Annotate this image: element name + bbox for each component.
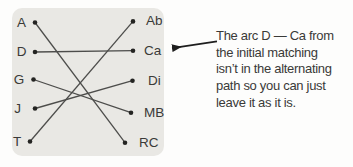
figure-canvas: A D G J T Ab Ca Di MB RC The arc D — Ca … <box>0 0 353 167</box>
edge-G-MB <box>34 80 132 113</box>
annotation-line-2: the initial matching <box>216 45 353 62</box>
matching-edges-graphic <box>12 8 164 156</box>
node-dot-G <box>31 77 36 82</box>
node-dot-RC <box>123 140 128 145</box>
node-label-Di: Di <box>148 73 161 88</box>
node-dot-J <box>33 106 38 111</box>
annotation-line-5: leave it as it is. <box>216 95 353 112</box>
annotation-line-3: isn’t in the alternating <box>216 61 353 78</box>
node-dot-Ca <box>131 48 136 53</box>
node-dot-Di <box>130 78 135 83</box>
edge-D-Ca <box>35 51 133 52</box>
node-label-RC: RC <box>139 135 159 150</box>
node-dot-D <box>33 50 38 55</box>
node-dot-T <box>28 139 33 144</box>
node-label-Ca: Ca <box>144 43 161 58</box>
annotation-text-block: The arc D — Ca from the initial matching… <box>216 28 353 112</box>
edge-T-Ab <box>30 21 133 141</box>
node-label-T: T <box>9 134 25 149</box>
node-label-J: J <box>10 101 26 116</box>
node-dot-A <box>33 20 38 25</box>
node-label-D: D <box>14 44 30 59</box>
node-label-A: A <box>14 15 30 30</box>
node-dot-Ab <box>131 19 136 24</box>
node-label-Ab: Ab <box>146 14 163 29</box>
annotation-line-4: path so you can just <box>216 78 353 95</box>
annotation-line-1: The arc D — Ca from <box>216 28 353 45</box>
arrow-shaft <box>172 41 217 48</box>
node-label-MB: MB <box>144 105 164 120</box>
node-dot-MB <box>129 110 134 115</box>
bipartite-graph-panel: A D G J T Ab Ca Di MB RC <box>12 8 164 156</box>
node-label-G: G <box>11 72 27 87</box>
